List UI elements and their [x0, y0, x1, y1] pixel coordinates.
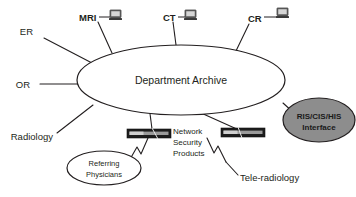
label-or[interactable]: OR	[16, 79, 30, 90]
workstation-icon	[276, 8, 289, 18]
label-mri[interactable]: MRI	[79, 12, 96, 23]
label-er[interactable]: ER	[20, 26, 33, 37]
lightning-tele-radiology	[207, 138, 226, 162]
referring-physicians-line2: Physicians	[86, 170, 122, 179]
network-diagram: Department Archive ER OR Radiology MRI C…	[0, 0, 356, 197]
workstation-icon	[184, 10, 197, 20]
firewall-icon[interactable]	[127, 128, 171, 139]
label-ct[interactable]: CT	[163, 12, 176, 23]
edge-mri	[98, 22, 112, 53]
firewall-caption-line2: Security	[173, 138, 202, 147]
label-radiology[interactable]: Radiology	[11, 131, 53, 142]
ris-cis-his-line1: RIS/CIS/HIS	[297, 112, 342, 121]
referring-physicians-ellipse[interactable]	[67, 151, 141, 185]
edge-cr	[235, 24, 249, 53]
firewall-caption-line1: Network	[173, 127, 203, 136]
firewall-caption-line3: Products	[173, 149, 205, 158]
edge-ct	[173, 22, 176, 45]
edge-radiology	[57, 105, 93, 133]
diagram-canvas: Department Archive ER OR Radiology MRI C…	[0, 0, 356, 197]
edge-tele-radiology	[226, 162, 238, 175]
referring-physicians-line1: Referring	[89, 159, 120, 168]
department-archive-label: Department Archive	[135, 74, 227, 86]
edge-er	[44, 38, 92, 63]
firewall-icon[interactable]	[221, 127, 265, 138]
label-cr[interactable]: CR	[248, 13, 262, 24]
workstation-icon	[109, 10, 122, 20]
label-tele-radiology[interactable]: Tele-radiology	[240, 172, 299, 183]
ris-cis-his-line2: Interface	[302, 123, 336, 132]
